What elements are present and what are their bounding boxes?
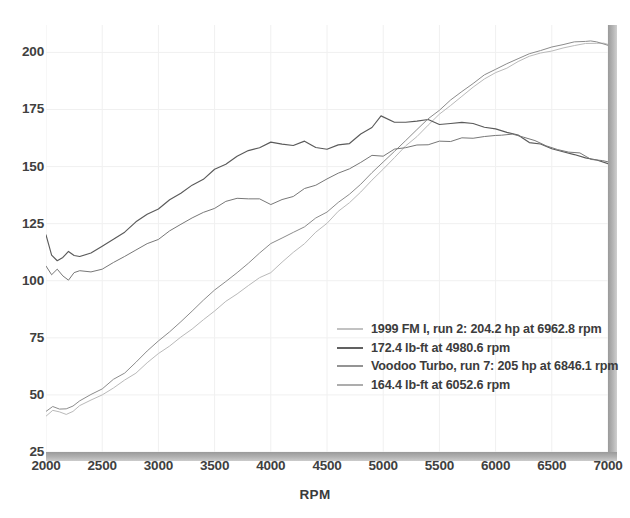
y-tick-label: 100 [4,274,44,288]
x-tick-label: 4000 [241,458,301,473]
y-tick-label: 125 [4,217,44,231]
legend-label: 172.4 lb-ft at 4980.6 rpm [371,341,510,355]
chart-legend: 1999 FM I, run 2: 204.2 hp at 6962.8 rpm… [337,320,618,394]
legend-item: Voodoo Turbo, run 7: 205 hp at 6846.1 rp… [337,357,618,376]
x-axis-title: RPM [0,487,630,502]
legend-label: 164.4 lb-ft at 6052.6 rpm [371,378,510,392]
legend-swatch [337,328,363,330]
legend-item: 172.4 lb-ft at 4980.6 rpm [337,339,618,358]
legend-swatch [337,347,363,349]
x-tick-label: 7000 [578,458,630,473]
legend-label: Voodoo Turbo, run 7: 205 hp at 6846.1 rp… [371,359,618,373]
y-tick-label: 200 [4,45,44,59]
y-tick-label: 75 [4,331,44,345]
legend-label: 1999 FM I, run 2: 204.2 hp at 6962.8 rpm [371,322,602,336]
x-tick-label: 3500 [185,458,245,473]
dyno-chart: 200175150125100755025 200025003000350040… [0,0,630,518]
x-tick-label: 4500 [297,458,357,473]
y-tick-label: 175 [4,102,44,116]
x-tick-label: 2500 [72,458,132,473]
legend-item: 1999 FM I, run 2: 204.2 hp at 6962.8 rpm [337,320,618,339]
x-tick-label: 6500 [522,458,582,473]
x-tick-label: 5500 [409,458,469,473]
legend-item: 164.4 lb-ft at 6052.6 rpm [337,376,618,395]
axis-bar-right [608,25,617,461]
y-tick-label: 25 [4,445,44,459]
x-tick-label: 2000 [16,458,76,473]
x-tick-label: 3000 [128,458,188,473]
legend-swatch [337,384,363,386]
x-tick-label: 5000 [353,458,413,473]
y-tick-label: 150 [4,160,44,174]
x-tick-label: 6000 [466,458,526,473]
y-axis-ticks: 200175150125100755025 [0,0,44,518]
y-tick-label: 50 [4,388,44,402]
legend-swatch [337,365,363,367]
